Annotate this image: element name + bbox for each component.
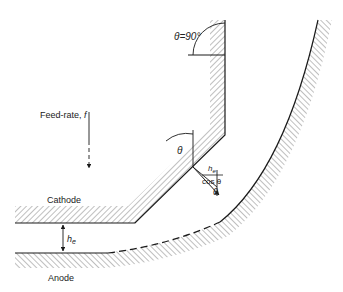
fraction-denominator: cos θ [202, 177, 222, 186]
fraction-numerator: he [208, 164, 216, 174]
angle-90-label: θ=90° [174, 31, 200, 42]
normal-gap-arrow: he cos θ θ [193, 164, 223, 197]
electrode-gap-diagram: θ=90° θ he cos θ θ Feed-rate, f Cathode … [0, 0, 343, 292]
cathode-label: Cathode [47, 195, 81, 205]
gap-label: he [67, 234, 76, 245]
anode-label: Anode [48, 273, 74, 283]
angle-theta-label: θ [177, 145, 183, 156]
feed-rate-indicator: Feed-rate, f [40, 110, 89, 168]
angle-theta-lower-label: θ [213, 187, 218, 197]
gap-arrow: he [63, 225, 76, 251]
feed-rate-label: Feed-rate, f [40, 110, 88, 120]
